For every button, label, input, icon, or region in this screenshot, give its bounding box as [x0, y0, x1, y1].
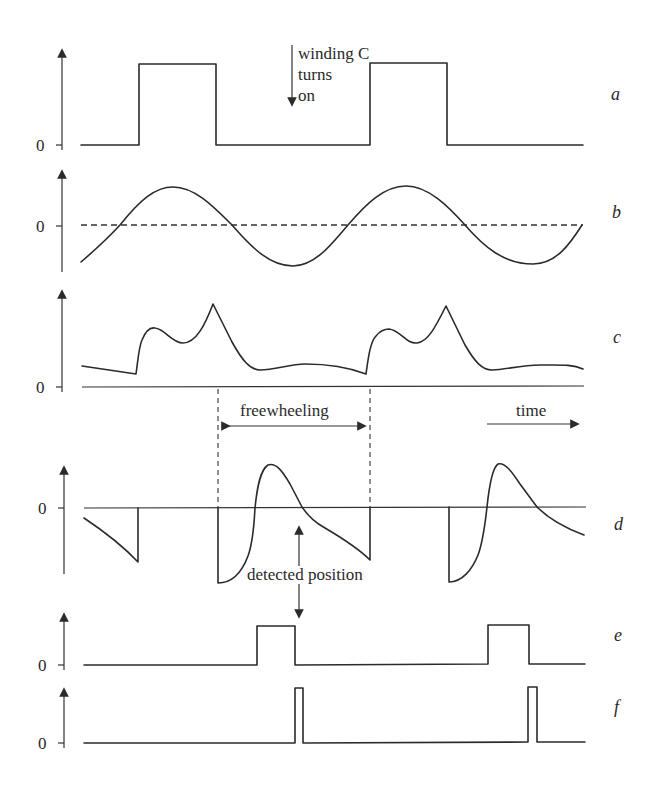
winding-label-line1: winding C [298, 44, 369, 63]
winding-label-line2: turns [298, 65, 332, 84]
zero-label-e: 0 [38, 656, 47, 675]
panel-f: 0 f [38, 687, 622, 753]
waveform-f [84, 687, 585, 743]
waveform-e [84, 625, 585, 665]
panel-label-f: f [614, 697, 622, 717]
freewheeling-label: freewheeling [240, 401, 329, 420]
panel-label-e: e [614, 625, 622, 645]
waveform-b [81, 186, 582, 266]
panel-c: 0 c [36, 294, 621, 397]
zero-line-d [84, 507, 586, 508]
panel-b: 0 b [36, 174, 621, 272]
waveform-a [81, 63, 583, 145]
winding-label-line3: on [298, 86, 316, 105]
panel-label-c: c [613, 327, 621, 347]
panel-label-d: d [614, 514, 624, 534]
detected-position-annotation: detected position [247, 530, 363, 614]
zero-label-d: 0 [38, 499, 47, 518]
zero-label-f: 0 [38, 734, 47, 753]
waveform-c [82, 304, 583, 374]
panel-label-b: b [612, 202, 621, 222]
freewheeling-annotation: freewheeling time [218, 389, 575, 508]
detected-position-label: detected position [247, 565, 363, 584]
zero-label-c: 0 [36, 378, 45, 397]
zero-label-a: 0 [36, 136, 45, 155]
panel-e: 0 e [38, 617, 622, 675]
waveform-diagram: 0 winding C turns on a 0 b 0 c freewheel… [0, 0, 663, 793]
zero-label-b: 0 [36, 217, 45, 236]
time-label: time [516, 401, 546, 420]
panel-label-a: a [611, 84, 620, 104]
panel-a: 0 winding C turns on a [36, 44, 620, 155]
zero-line-c [82, 386, 584, 387]
